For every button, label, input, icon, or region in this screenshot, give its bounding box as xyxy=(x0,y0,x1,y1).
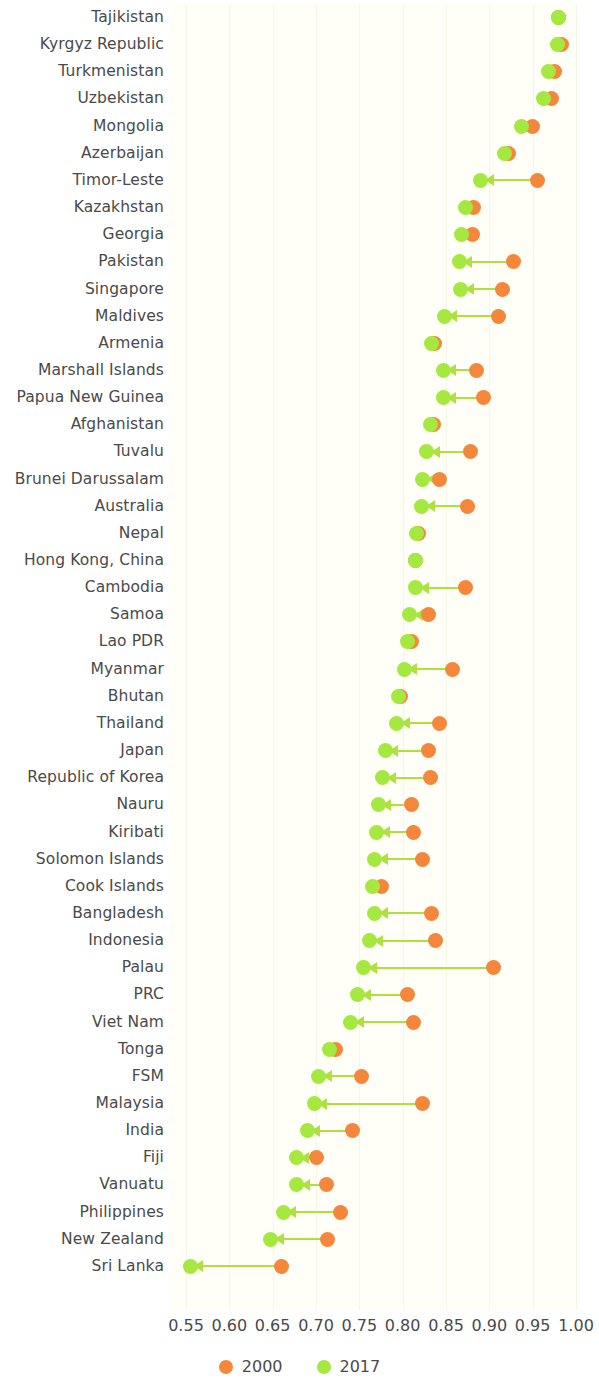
row-label-singapore: Singapore xyxy=(4,276,164,303)
chart-row: Sri Lanka xyxy=(0,1253,599,1280)
data-point-2000 xyxy=(432,716,447,731)
legend-item-2017[interactable]: 2017 xyxy=(317,1357,381,1376)
row-label-armenia: Armenia xyxy=(4,330,164,357)
chart-row: Tajikistan xyxy=(0,4,599,31)
data-point-2017 xyxy=(437,309,452,324)
row-label-fiji: Fiji xyxy=(4,1144,164,1171)
chart-row: Malaysia xyxy=(0,1090,599,1117)
row-label-tajikistan: Tajikistan xyxy=(4,4,164,31)
legend-swatch-icon xyxy=(219,1360,233,1374)
x-axis: 0.550.600.650.700.750.800.850.900.951.00 xyxy=(0,1316,599,1342)
data-point-2000 xyxy=(274,1259,289,1274)
data-point-2000 xyxy=(432,472,447,487)
x-tick-label: 0.90 xyxy=(466,1316,512,1335)
row-label-palau: Palau xyxy=(4,954,164,981)
data-point-2017 xyxy=(307,1096,322,1111)
row-label-kyrgyz-republic: Kyrgyz Republic xyxy=(4,31,164,58)
legend-swatch-icon xyxy=(317,1360,331,1374)
data-point-2017 xyxy=(389,716,404,731)
chart-row: Cambodia xyxy=(0,574,599,601)
row-label-indonesia: Indonesia xyxy=(4,927,164,954)
chart-row: Myanmar xyxy=(0,656,599,683)
data-point-2000 xyxy=(415,852,430,867)
row-label-brunei-darussalam: Brunei Darussalam xyxy=(4,466,164,493)
data-point-2000 xyxy=(463,444,478,459)
data-point-2000 xyxy=(476,390,491,405)
row-label-fsm: FSM xyxy=(4,1063,164,1090)
chart-row: FSM xyxy=(0,1063,599,1090)
row-label-lao-pdr: Lao PDR xyxy=(4,628,164,655)
row-label-nauru: Nauru xyxy=(4,791,164,818)
change-connector xyxy=(194,1265,281,1267)
x-tick-label: 0.75 xyxy=(336,1316,382,1335)
chart-row: Kazakhstan xyxy=(0,194,599,221)
data-point-2017 xyxy=(300,1123,315,1138)
data-point-2000 xyxy=(491,309,506,324)
chart-row: Viet Nam xyxy=(0,1009,599,1036)
data-point-2017 xyxy=(343,1015,358,1030)
data-point-2000 xyxy=(406,1015,421,1030)
chart-row: Georgia xyxy=(0,221,599,248)
chart-row: Mongolia xyxy=(0,113,599,140)
chart-row: Nepal xyxy=(0,520,599,547)
data-point-2000 xyxy=(421,743,436,758)
row-label-marshall-islands: Marshall Islands xyxy=(4,357,164,384)
data-point-2000 xyxy=(423,770,438,785)
x-tick-label: 0.80 xyxy=(380,1316,426,1335)
data-point-2000 xyxy=(460,499,475,514)
data-point-2000 xyxy=(458,580,473,595)
chart-row: Bangladesh xyxy=(0,900,599,927)
data-point-2017 xyxy=(276,1205,291,1220)
data-point-2017 xyxy=(551,10,566,25)
row-label-sri-lanka: Sri Lanka xyxy=(4,1253,164,1280)
data-point-2000 xyxy=(530,173,545,188)
data-point-2000 xyxy=(469,363,484,378)
data-point-2000 xyxy=(506,254,521,269)
row-label-kiribati: Kiribati xyxy=(4,819,164,846)
chart-row: Palau xyxy=(0,954,599,981)
row-label-papua-new-guinea: Papua New Guinea xyxy=(4,384,164,411)
row-label-republic-of-korea: Republic of Korea xyxy=(4,764,164,791)
legend-label: 2000 xyxy=(242,1357,283,1376)
chart-row: Marshall Islands xyxy=(0,357,599,384)
data-point-2017 xyxy=(415,472,430,487)
chart-row: Fiji xyxy=(0,1144,599,1171)
data-point-2000 xyxy=(333,1205,348,1220)
row-label-myanmar: Myanmar xyxy=(4,656,164,683)
data-point-2017 xyxy=(458,200,473,215)
chart-row: Japan xyxy=(0,737,599,764)
chart-row: Pakistan xyxy=(0,248,599,275)
chart-row: Timor-Leste xyxy=(0,167,599,194)
data-point-2017 xyxy=(183,1259,198,1274)
row-label-japan: Japan xyxy=(4,737,164,764)
data-point-2000 xyxy=(428,933,443,948)
chart-row: Singapore xyxy=(0,276,599,303)
chart-row: Solomon Islands xyxy=(0,846,599,873)
x-tick-label: 0.85 xyxy=(423,1316,469,1335)
chart-row: Kyrgyz Republic xyxy=(0,31,599,58)
chart-row: Azerbaijan xyxy=(0,140,599,167)
row-label-nepal: Nepal xyxy=(4,520,164,547)
row-label-timor-leste: Timor-Leste xyxy=(4,167,164,194)
legend-label: 2017 xyxy=(340,1357,381,1376)
row-label-vanuatu: Vanuatu xyxy=(4,1171,164,1198)
chart-row: Papua New Guinea xyxy=(0,384,599,411)
x-tick-label: 0.95 xyxy=(510,1316,556,1335)
row-label-uzbekistan: Uzbekistan xyxy=(4,85,164,112)
chart-row: Australia xyxy=(0,493,599,520)
data-point-2017 xyxy=(369,825,384,840)
chart-row: Turkmenistan xyxy=(0,58,599,85)
chart-row: Maldives xyxy=(0,303,599,330)
row-label-samoa: Samoa xyxy=(4,601,164,628)
x-tick-label: 0.55 xyxy=(163,1316,209,1335)
data-point-2000 xyxy=(406,825,421,840)
row-label-philippines: Philippines xyxy=(4,1199,164,1226)
data-point-2017 xyxy=(514,119,529,134)
row-label-kazakhstan: Kazakhstan xyxy=(4,194,164,221)
chart-row: Lao PDR xyxy=(0,628,599,655)
data-point-2017 xyxy=(424,336,439,351)
data-point-2017 xyxy=(473,173,488,188)
row-label-maldives: Maldives xyxy=(4,303,164,330)
legend-item-2000[interactable]: 2000 xyxy=(219,1357,283,1376)
row-label-hong-kong-china: Hong Kong, China xyxy=(4,547,164,574)
